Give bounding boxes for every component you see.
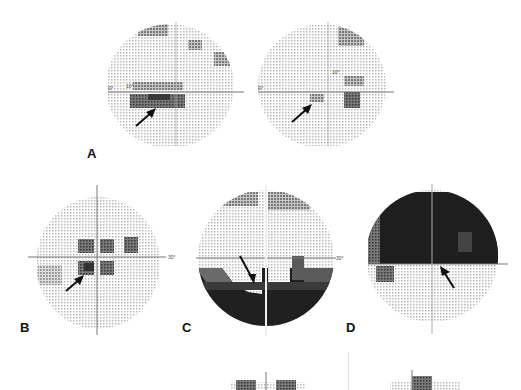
axis-label-10: 10° [332, 69, 340, 75]
panel-label-c: C [182, 320, 191, 335]
axis-label-30: 30° [368, 257, 372, 263]
axis-label-10: 10° [126, 83, 134, 89]
panel-label-a: A [87, 146, 96, 161]
visual-field-d: 30° [368, 184, 518, 334]
axis-label-30: 30° [258, 85, 264, 91]
panel-label-d: D [346, 320, 355, 335]
panel-label-b: B [20, 320, 29, 335]
visual-field-bottom-right-partial [386, 370, 466, 390]
visual-field-bottom-left-partial [228, 372, 308, 390]
visual-field-a-right: 30° 10° [258, 22, 398, 146]
visual-field-b: 30° [28, 185, 178, 335]
divider-line [348, 352, 349, 390]
axis-label-30: 30° [168, 254, 176, 260]
visual-field-c: 30° [196, 186, 346, 336]
axis-label-30: 30° [336, 255, 344, 261]
visual-field-a-left: 30° 10° [108, 22, 248, 146]
axis-label-30: 30° [108, 85, 114, 91]
